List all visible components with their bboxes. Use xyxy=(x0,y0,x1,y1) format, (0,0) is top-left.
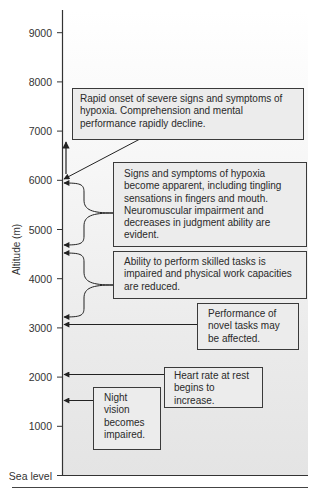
y-tick-label: 1000 xyxy=(2,420,52,432)
y-tick-label: 4000 xyxy=(2,273,52,285)
brace-ability xyxy=(64,253,113,285)
annotation-night-vision: Night vision becomes impaired. xyxy=(93,387,161,450)
y-axis-title: Altitude (m) xyxy=(11,220,22,280)
y-tick-label: 3000 xyxy=(2,322,52,334)
y-tick-label: Sea level xyxy=(2,470,52,482)
y-tick-label: 2000 xyxy=(2,371,52,383)
y-tick-label: 9000 xyxy=(2,27,52,39)
y-tick-label: 7000 xyxy=(2,125,52,137)
bottom-rule xyxy=(12,487,308,488)
annotation-novel-tasks: Performance of novel tasks may be affect… xyxy=(197,303,299,350)
annotation-ability: Ability to perform skilled tasks is impa… xyxy=(113,251,307,299)
y-tick-label: 8000 xyxy=(2,76,52,88)
y-tick-label: 5000 xyxy=(2,224,52,236)
annotation-heart-rate: Heart rate at rest begins to increase. xyxy=(164,367,263,408)
annotation-rapid-onset: Rapid onset of severe signs and symptoms… xyxy=(72,88,304,140)
brace-signs-symptoms xyxy=(64,183,113,213)
y-tick-label: 6000 xyxy=(2,174,52,186)
annotation-signs-symptoms: Signs and symptoms of hypoxia become app… xyxy=(113,162,307,247)
